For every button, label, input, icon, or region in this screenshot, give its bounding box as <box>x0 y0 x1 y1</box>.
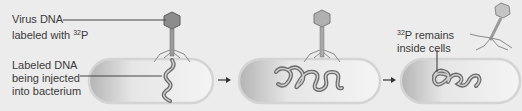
bacterium-cell-1 <box>89 59 213 103</box>
bacterium-cell-2 <box>239 59 380 103</box>
label-32p-remains: 32P remains inside cells <box>397 26 454 55</box>
phage-2 <box>304 10 340 62</box>
label-injected-dna: Labeled DNA being injected into bacteriu… <box>12 59 81 98</box>
label-virus-dna: Virus DNA labeled with 32P <box>12 13 88 42</box>
bacterium-cell-3 <box>401 59 520 103</box>
arrow-right-icon <box>383 77 396 83</box>
arrow-right-icon <box>218 77 231 83</box>
phage-3 <box>470 3 512 50</box>
